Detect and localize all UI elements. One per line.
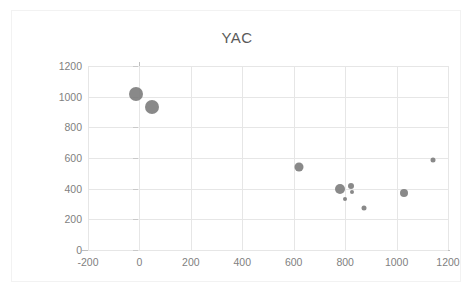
x-axis-tick-label: 200	[182, 256, 200, 268]
data-point	[145, 100, 159, 114]
data-point	[129, 87, 143, 101]
data-point	[400, 189, 408, 197]
data-point	[362, 205, 367, 210]
x-axis-tick-label: -200	[77, 256, 98, 268]
y-axis-tick-label: 200	[64, 213, 82, 225]
y-axis-tick-label: 1000	[59, 91, 82, 103]
data-point	[430, 157, 435, 162]
y-axis-tick-label: 800	[64, 121, 82, 133]
data-point	[348, 183, 354, 189]
y-axis-tick-mark	[133, 127, 138, 128]
plot-area	[88, 66, 448, 250]
y-axis-tick-label: 600	[64, 152, 82, 164]
gridline-horizontal	[88, 66, 448, 67]
y-axis-tick-mark	[133, 219, 138, 220]
y-axis-tick-label: 1200	[59, 60, 82, 72]
x-axis-tick-label: 800	[336, 256, 354, 268]
gridline-horizontal	[88, 189, 448, 190]
gridline-horizontal	[88, 127, 448, 128]
x-axis-tick-label: 400	[234, 256, 252, 268]
gridline-horizontal	[88, 250, 448, 251]
x-axis-labels: -200020040060080010001200	[88, 256, 448, 272]
gridline-vertical	[448, 66, 449, 250]
y-axis-tick-mark	[133, 250, 138, 251]
x-axis-tick-label: 1000	[385, 256, 408, 268]
gridline-horizontal	[88, 97, 448, 98]
x-axis-tick-label: 600	[285, 256, 303, 268]
y-axis-tick-mark	[133, 66, 138, 67]
data-point	[335, 184, 345, 194]
chart-container: YAC 020040060080010001200 -2000200400600…	[11, 10, 461, 282]
chart-title: YAC	[12, 29, 462, 46]
y-axis-tick-label: 400	[64, 183, 82, 195]
y-axis-tick-mark	[133, 189, 138, 190]
data-point	[294, 163, 303, 172]
data-point	[350, 190, 354, 194]
x-axis-tick-label: 0	[137, 256, 143, 268]
data-point	[343, 197, 347, 201]
x-axis-tick-label: 1200	[436, 256, 459, 268]
y-axis-tick-mark	[133, 158, 138, 159]
y-axis-labels: 020040060080010001200	[32, 66, 82, 250]
gridline-horizontal	[88, 158, 448, 159]
gridline-horizontal	[88, 219, 448, 220]
